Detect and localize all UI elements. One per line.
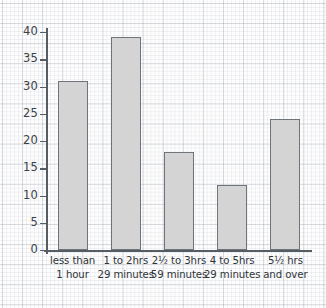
bar xyxy=(270,119,300,250)
bar xyxy=(164,152,194,250)
bar xyxy=(217,185,247,250)
y-tick-mark xyxy=(40,141,46,142)
x-tick-label-line1: 1 to 2hrs xyxy=(103,255,148,266)
y-tick-mark xyxy=(40,59,46,60)
y-tick-label: 10 xyxy=(12,188,38,202)
bar-chart-figure: 0510152025303540 less than1 hour1 to 2hr… xyxy=(0,0,326,308)
y-tick-label: 20 xyxy=(12,133,38,147)
y-tick-mark xyxy=(40,250,46,251)
bars-group xyxy=(46,28,312,250)
x-axis-line xyxy=(44,250,312,252)
y-tick-mark xyxy=(40,196,46,197)
y-tick-label: 40 xyxy=(12,24,38,38)
y-tick-label: 5 xyxy=(12,215,38,229)
x-tick-label: 5½ hrsand over xyxy=(253,254,318,281)
y-tick-mark xyxy=(40,223,46,224)
bar xyxy=(111,37,141,250)
y-tick-mark xyxy=(40,87,46,88)
y-tick-label: 15 xyxy=(12,160,38,174)
y-tick-mark xyxy=(40,32,46,33)
x-tick-label-line1: 2½ to 3hrs xyxy=(152,255,207,266)
y-tick-label: 35 xyxy=(12,51,38,65)
y-tick-mark xyxy=(40,114,46,115)
y-tick-label: 0 xyxy=(12,242,38,256)
x-tick-label-line1: 4 to 5hrs xyxy=(210,255,255,266)
y-tick-mark xyxy=(40,168,46,169)
y-tick-label: 25 xyxy=(12,106,38,120)
x-tick-label-line1: 5½ hrs xyxy=(268,255,303,266)
bar xyxy=(58,81,88,250)
x-tick-label-line2: and over xyxy=(253,268,318,282)
y-axis-labels: 0510152025303540 xyxy=(8,0,38,308)
x-tick-label-line1: less than xyxy=(50,255,95,266)
y-tick-label: 30 xyxy=(12,79,38,93)
